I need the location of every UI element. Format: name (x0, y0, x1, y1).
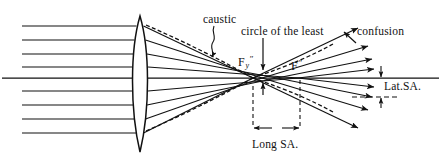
caustic-label: caustic (203, 14, 236, 26)
optics-figure: caustic circle of the least confusion La… (0, 0, 441, 162)
circle-of-least-label: circle of the least (241, 26, 324, 38)
lateral-sa-label: Lat.SA. (384, 81, 421, 93)
longitudinal-sa-label: Long SA. (252, 139, 298, 151)
confusion-leader-line (344, 32, 356, 43)
confusion-label: confusion (357, 26, 404, 38)
paraxial-focus-label: Fy″ (238, 55, 254, 70)
paraxial-focus-base: F (238, 55, 245, 69)
refracted-converging-rays (144, 26, 299, 133)
paraxial-focus-prime: ″ (249, 54, 253, 64)
incoming-parallel-rays (22, 26, 137, 133)
marginal-focus-prime: ″ (298, 58, 302, 68)
marginal-focus-label: F″ (291, 59, 302, 72)
caustic-leader-line (212, 26, 215, 57)
marginal-focus-base: F (291, 59, 298, 73)
